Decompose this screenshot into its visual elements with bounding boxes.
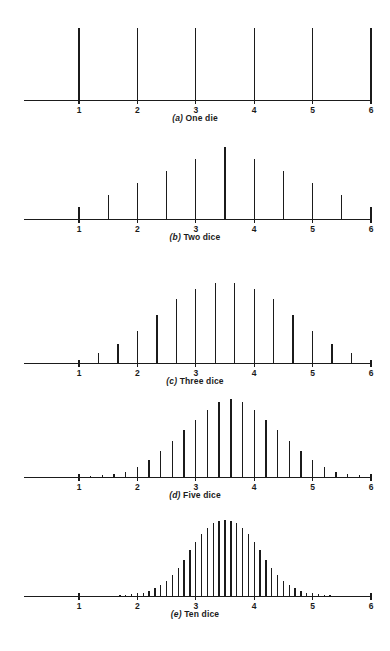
x-tick-label-1: 1: [71, 224, 87, 234]
panel-caption-a: (a) One die: [0, 113, 390, 124]
plot-area-a: [0, 28, 390, 100]
spike: [195, 542, 196, 596]
spike: [283, 171, 284, 219]
spike: [254, 289, 255, 363]
spike: [370, 207, 371, 219]
x-tick-2: [137, 593, 138, 600]
spike: [341, 195, 342, 219]
x-tick-label-5: 5: [305, 224, 321, 234]
x-axis-line-c: [24, 363, 372, 364]
spike: [176, 299, 177, 363]
panel-e: 123456(e) Ten dice: [0, 0, 390, 651]
x-tick-label-6: 6: [363, 482, 379, 492]
spike: [292, 315, 293, 363]
panel-a: 123456(a) One die: [0, 0, 390, 651]
spike: [218, 521, 219, 596]
spike: [154, 588, 155, 596]
plot-area-c: [0, 283, 390, 363]
spike: [271, 568, 272, 596]
x-axis-line-e: [24, 596, 372, 597]
x-tick-label-3: 3: [188, 368, 204, 378]
x-tick-6: [370, 97, 371, 104]
x-axis-line-a: [24, 100, 372, 101]
spike: [156, 315, 157, 363]
panel-caption-text-b: Two dice: [183, 232, 220, 242]
spike: [254, 28, 255, 100]
x-tick-1: [78, 97, 79, 104]
spike: [207, 528, 208, 596]
panel-caption-e: (e) Ten dice: [0, 609, 390, 620]
spike: [78, 207, 79, 219]
spike: [331, 344, 332, 363]
spike: [254, 410, 255, 477]
spike: [119, 595, 120, 596]
panel-caption-index-e: (e): [171, 609, 182, 619]
x-tick-2: [137, 474, 138, 481]
x-tick-4: [254, 593, 255, 600]
spike: [242, 402, 243, 477]
spike: [300, 591, 301, 596]
spike: [259, 550, 260, 596]
x-tick-5: [312, 360, 313, 367]
x-tick-label-3: 3: [188, 105, 204, 115]
plot-area-b: [0, 147, 390, 219]
spike: [98, 353, 99, 363]
spike: [125, 472, 126, 477]
x-tick-3: [195, 474, 196, 481]
spike: [108, 195, 109, 219]
x-tick-label-6: 6: [363, 105, 379, 115]
x-tick-label-5: 5: [305, 368, 321, 378]
spike: [324, 595, 325, 596]
panel-caption-index-d: (d): [169, 490, 180, 500]
spike: [201, 534, 202, 596]
spike: [137, 467, 138, 477]
spike: [148, 460, 149, 477]
panel-caption-text-c: Three dice: [180, 376, 224, 386]
spike: [312, 331, 313, 363]
spike: [234, 283, 235, 363]
x-tick-6: [370, 216, 371, 223]
spike: [160, 585, 161, 596]
x-tick-label-3: 3: [188, 482, 204, 492]
x-tick-label-1: 1: [71, 105, 87, 115]
spike: [248, 534, 249, 596]
spike: [242, 528, 243, 596]
spike: [312, 28, 313, 100]
spike: [178, 568, 179, 596]
x-tick-5: [312, 216, 313, 223]
spike: [195, 28, 196, 100]
spike: [172, 441, 173, 477]
spike: [78, 28, 79, 100]
spike: [236, 523, 237, 596]
panel-caption-index-a: (a): [172, 113, 183, 123]
x-tick-label-2: 2: [129, 601, 145, 611]
panel-c: 123456(c) Three dice: [0, 0, 390, 651]
panel-caption-text-d: Five dice: [183, 490, 221, 500]
spike: [166, 581, 167, 596]
x-tick-3: [195, 216, 196, 223]
x-tick-label-2: 2: [129, 368, 145, 378]
x-tick-label-4: 4: [246, 105, 262, 115]
spike: [215, 283, 216, 363]
dice-distribution-figure: 123456(a) One die123456(b) Two dice12345…: [0, 0, 390, 651]
x-tick-label-5: 5: [305, 601, 321, 611]
spike: [273, 299, 274, 363]
spike: [289, 585, 290, 596]
spike: [312, 183, 313, 219]
spike: [230, 521, 231, 596]
spike: [172, 575, 173, 596]
x-tick-label-6: 6: [363, 368, 379, 378]
spike: [195, 420, 196, 477]
x-tick-label-1: 1: [71, 482, 87, 492]
spike: [306, 593, 307, 596]
spike: [370, 28, 371, 100]
spike: [294, 588, 295, 596]
spike: [335, 472, 336, 477]
x-tick-5: [312, 593, 313, 600]
x-tick-label-4: 4: [246, 601, 262, 611]
spike: [265, 420, 266, 477]
panel-d: 123456(d) Five dice: [0, 0, 390, 651]
x-tick-1: [78, 360, 79, 367]
x-axis-line-b: [24, 219, 372, 220]
spike: [189, 550, 190, 596]
